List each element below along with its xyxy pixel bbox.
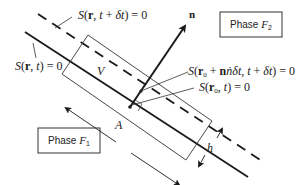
origin-point-label: S(r0, t) = 0 [199,80,250,95]
phase-f2-label: Phase F2 [230,18,272,31]
leader-current [33,43,36,58]
thickness-arrow-top [217,129,222,138]
displaced-point-label: S(r0 + nṅδt, t + δt) = 0 [188,64,295,79]
normal-vector-label: n [189,8,195,20]
thickness-arrow-bottom [199,155,205,166]
phase-f1-label: Phase F1 [48,134,90,147]
future-surface-label: S(r, t + δt) = 0 [78,8,147,22]
phase-f1-box: Phase F1 [38,128,100,153]
phase-f2-box: Phase F2 [220,12,282,37]
area-arrow-right [131,153,179,185]
thickness-label: h [207,141,213,155]
normal-vector-arrow [130,26,185,107]
leader-future [55,17,72,28]
origin-point [128,105,132,109]
area-label: A [114,118,123,132]
interface-diagram: Phase F2 Phase F1 S(r, t + δt) = 0 S(r, … [0,0,304,185]
current-surface-label: S(r, t) = 0 [15,59,62,73]
current-interface-line [25,32,248,177]
volume-label: V [97,64,106,78]
